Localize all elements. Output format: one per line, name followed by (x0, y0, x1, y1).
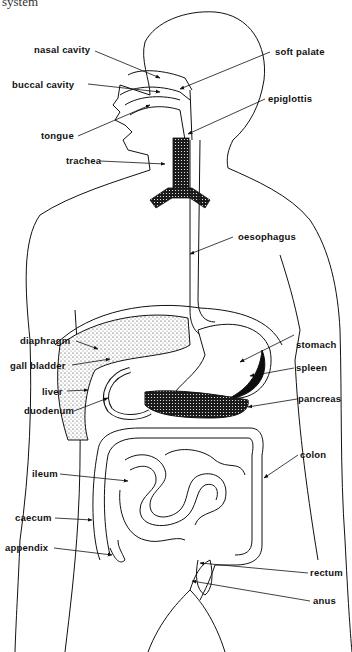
label-diaphragm: diaphragm (20, 335, 70, 346)
label-tongue: tongue (41, 130, 74, 141)
label-appendix: appendix (5, 542, 48, 553)
label-epiglottis: epiglottis (268, 93, 312, 104)
label-ileum: ileum (32, 468, 58, 479)
colon-shape (93, 428, 263, 600)
label-soft-palate: soft palate (275, 46, 325, 57)
trachea (150, 138, 210, 208)
label-colon: colon (300, 449, 326, 460)
label-duodenum: duodenum (24, 405, 74, 416)
label-anus: anus (313, 595, 336, 606)
label-buccal-cavity: buccal cavity (12, 79, 74, 90)
rectum-shape (196, 560, 212, 595)
ileum-coils (120, 450, 245, 542)
oesophagus-tube (190, 140, 215, 340)
label-oesophagus: oesophagus (238, 231, 296, 242)
label-spleen: spleen (296, 362, 327, 373)
appendix-shape (110, 540, 125, 562)
liver-shape (58, 315, 190, 440)
label-pancreas: pancreas (298, 393, 341, 404)
mouth-structure (120, 71, 192, 140)
label-liver: liver (42, 386, 63, 397)
label-stomach: stomach (296, 339, 336, 350)
label-caecum: caecum (15, 512, 52, 523)
label-gall-bladder: gall bladder (10, 360, 66, 371)
label-trachea: trachea (66, 155, 101, 166)
label-nasal-cavity: nasal cavity (34, 44, 90, 55)
label-rectum: rectum (310, 567, 343, 578)
